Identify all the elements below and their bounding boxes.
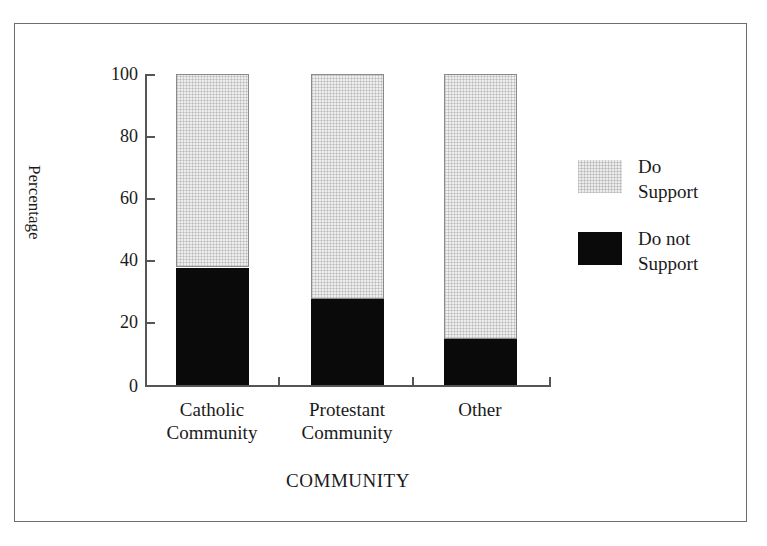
bar-segment-support[interactable] (176, 74, 249, 267)
bar-segment-not-support[interactable] (311, 299, 384, 385)
figure: Percentage 100 80 60 40 20 0 (0, 0, 767, 546)
legend-item-do-support[interactable]: Do Support (578, 158, 738, 230)
legend-label-do-not-support: Do not Support (638, 226, 748, 276)
bar-segment-not-support[interactable] (176, 268, 249, 385)
legend-label-line-2: Support (638, 179, 748, 204)
plot-area (145, 74, 551, 385)
legend-item-do-not-support[interactable]: Do not Support (578, 230, 738, 302)
bar-segment-support[interactable] (444, 74, 517, 339)
bar-catholic-community[interactable] (176, 74, 249, 385)
legend-label-line-1: Do not (638, 226, 748, 251)
y-tick-label-0: 0 (92, 377, 138, 395)
y-tick-label-80: 80 (92, 127, 138, 145)
legend-swatch-not-support-icon (578, 232, 622, 265)
chart-legend: Do Support Do not Support (578, 158, 738, 302)
y-tick-label-60: 60 (92, 189, 138, 207)
y-tick-label-100: 100 (92, 65, 138, 83)
category-line-1: Other (395, 398, 565, 421)
y-axis-title: Percentage (24, 165, 44, 295)
legend-swatch-support-icon (578, 160, 622, 193)
bar-protestant-community[interactable] (311, 74, 384, 385)
x-category-label-other: Other (395, 398, 565, 421)
x-axis-title: COMMUNITY (145, 470, 551, 492)
legend-label-line-2: Support (638, 251, 748, 276)
legend-label-line-1: Do (638, 154, 748, 179)
bar-other[interactable] (444, 74, 517, 385)
x-axis-line (145, 385, 551, 387)
bar-segment-support[interactable] (311, 74, 384, 299)
y-tick-label-20: 20 (92, 313, 138, 331)
y-tick-label-40: 40 (92, 251, 138, 269)
y-axis-tick-labels: 100 80 60 40 20 0 (84, 0, 138, 546)
category-line-2: Community (262, 421, 432, 444)
legend-label-do-support: Do Support (638, 154, 748, 204)
bar-segment-not-support[interactable] (444, 339, 517, 385)
